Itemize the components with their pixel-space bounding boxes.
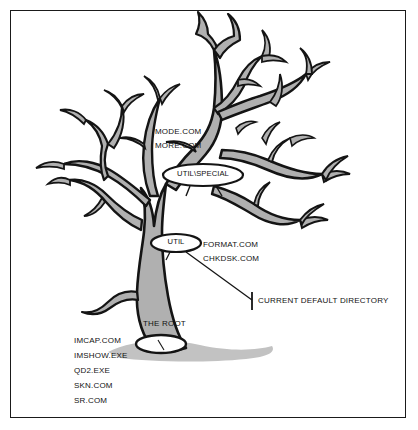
label-skn-com: SKN.COM [74, 382, 113, 390]
label-mode-com: MODE.COM [155, 128, 202, 136]
label-imcap-com: IMCAP.COM [74, 337, 121, 345]
callout-ellipse-the-root [136, 335, 186, 353]
label-imshow-exe: IMSHOW.EXE [74, 352, 128, 360]
tree-branch-upper-right-twigs [236, 121, 280, 144]
label-chkdsk-com: CHKDSK.COM [203, 255, 259, 263]
tree-branch-right-lower [212, 182, 328, 228]
tree-illustration [0, 0, 418, 430]
label-sr-com: SR.COM [74, 397, 107, 405]
callout-label-util: UTIL [157, 238, 195, 246]
label-format-com: FORMAT.COM [203, 241, 258, 249]
label-more-com: MORE.COM [155, 142, 202, 150]
callout-label-the-root: THE ROOT [143, 320, 186, 328]
label-current-default-directory: CURRENT DEFAULT DIRECTORY [258, 297, 389, 305]
figure-tree-diagram: MODE.COM MORE.COM UTIL\SPECIAL UTIL FORM… [0, 0, 418, 430]
ground-shadow [108, 341, 273, 362]
label-qd2-exe: QD2.EXE [74, 367, 110, 375]
callout-label-util-special: UTIL\SPECIAL [166, 170, 240, 178]
